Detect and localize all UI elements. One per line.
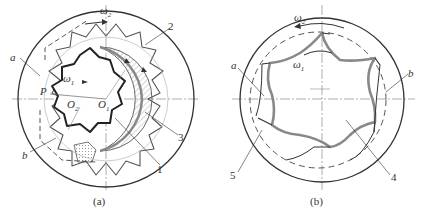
label-o1: O1 <box>98 99 109 113</box>
label-part-4: 4 <box>391 172 397 183</box>
label-part-2: 2 <box>168 21 174 32</box>
label-a-port-b: a <box>231 60 237 71</box>
label-part-5: 5 <box>230 170 236 181</box>
label-part-1: 1 <box>157 164 163 175</box>
figure-b-drawing <box>232 5 415 190</box>
diagram-canvas <box>0 0 424 219</box>
label-omega2-a: ω2 <box>100 5 111 19</box>
caption-a: (a) <box>93 196 105 207</box>
label-point-p: P <box>40 86 47 97</box>
caption-b: (b) <box>310 196 323 207</box>
label-b-port: b <box>22 150 28 161</box>
label-omega2-b: ω2 <box>294 12 305 26</box>
label-omega1-b: ω1 <box>293 59 304 73</box>
label-a-port: a <box>10 52 16 63</box>
label-omega1-a: ω1 <box>63 73 74 87</box>
label-b-port-b: b <box>408 68 414 79</box>
label-part-3: 3 <box>178 132 184 143</box>
label-o2: O2 <box>67 99 78 113</box>
figure-a-drawing <box>12 5 200 190</box>
